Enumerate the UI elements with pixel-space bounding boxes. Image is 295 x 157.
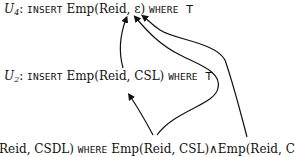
arrow-u2-to-u4-reid [120, 19, 126, 68]
arrow-bottom-to-u4-epsilon-b [144, 17, 247, 137]
arrow-bottom-to-u4-epsilon-a [136, 18, 218, 135]
dependency-arrows [0, 0, 295, 157]
arrow-bottom-to-u2-csl [130, 96, 153, 135]
